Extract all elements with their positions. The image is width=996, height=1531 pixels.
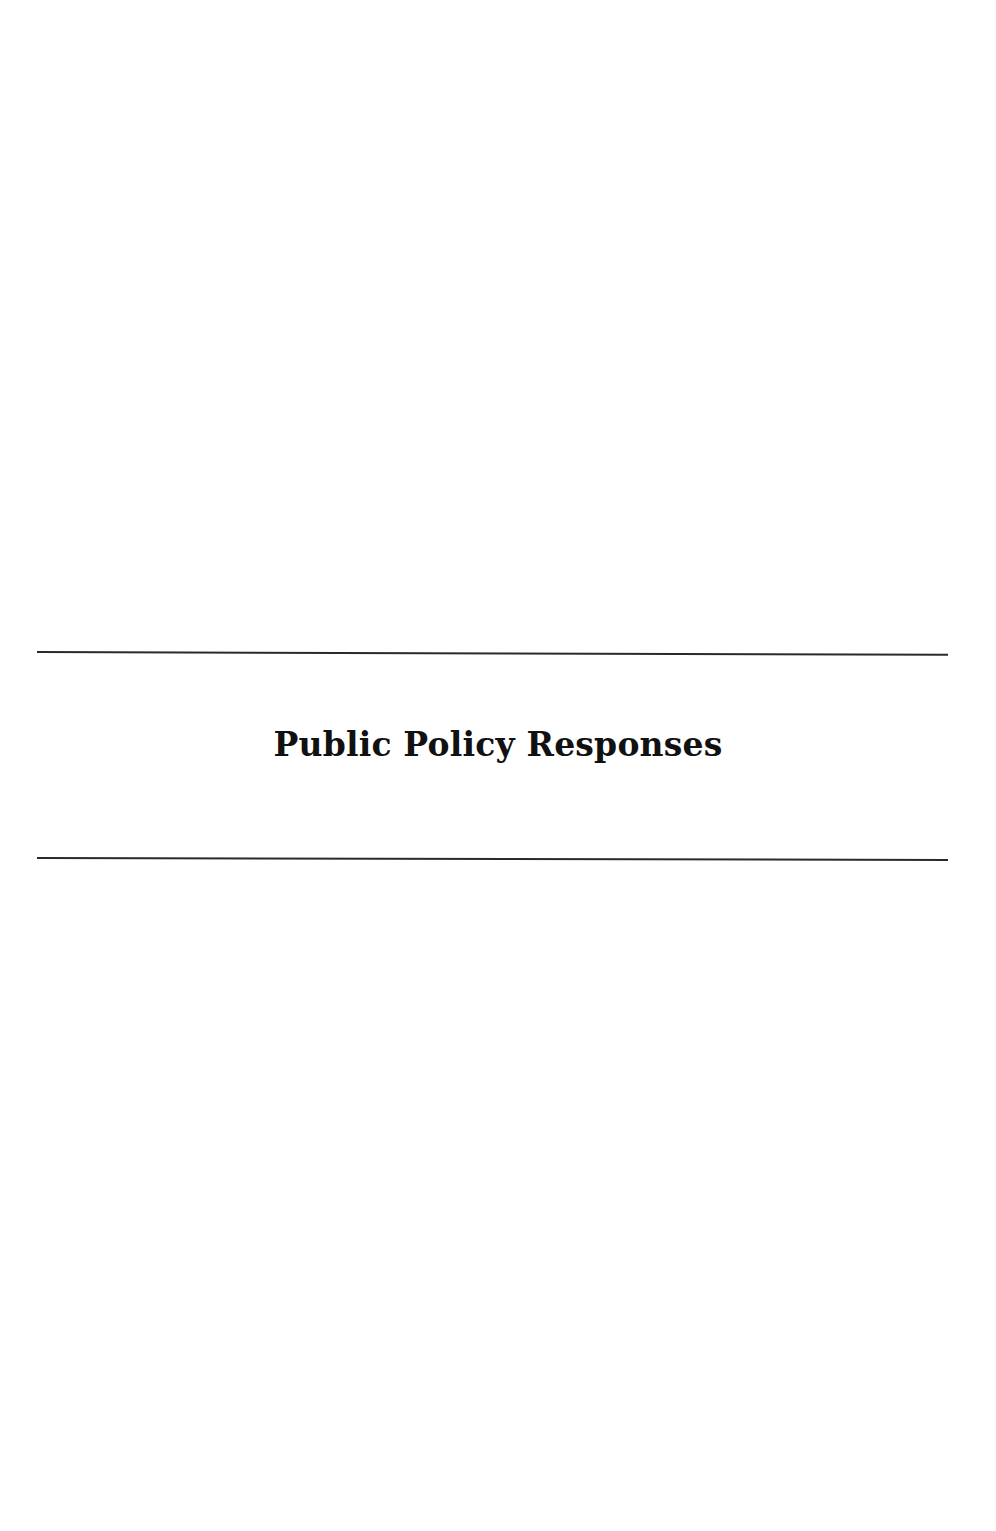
bottom-divider-rule: [37, 857, 948, 861]
top-divider-rule: [37, 651, 948, 656]
section-title: Public Policy Responses: [0, 725, 996, 764]
